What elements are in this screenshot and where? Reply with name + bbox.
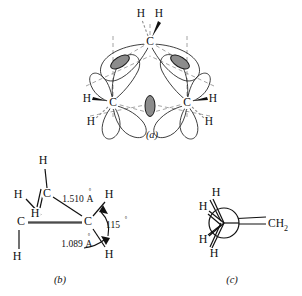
atom-label-carbon: C: [17, 214, 25, 228]
bond-length-ch: 1.089 A °: [61, 233, 92, 249]
bond-length-ch-value: 1.089: [61, 239, 83, 249]
atom-label-hydrogen: H: [39, 153, 48, 167]
methylene-label: CH: [268, 217, 284, 229]
ch-bond-wedge: [192, 97, 208, 101]
atom-label-hydrogen: H: [14, 187, 23, 201]
atom-label-hydrogen: H: [137, 7, 145, 19]
atom-label-carbon: C: [109, 96, 117, 108]
methylene-subscript: 2: [284, 224, 288, 233]
atom-label-carbon: C: [146, 35, 154, 47]
atom-label-hydrogen: H: [199, 199, 208, 213]
panel-caption-b: (b): [54, 274, 67, 286]
bond-length-cc-value: 1.510: [62, 194, 84, 204]
atom-label-hydrogen: H: [209, 92, 217, 104]
atom-label-hydrogen: H: [155, 7, 163, 19]
panel-caption-a: (a): [146, 129, 159, 141]
bent-bond-lobe: [108, 52, 131, 72]
panel-b: H H C H C H C H H 1.510 A ° 1.089 A °: [11, 153, 128, 287]
bent-bond-lobe: [168, 52, 191, 72]
atom-label-hydrogen: H: [83, 92, 91, 104]
figure-canvas: C C C H H H H H H (a): [0, 0, 302, 296]
atom-label-hydrogen: H: [105, 247, 114, 261]
panel-caption-c: (c): [226, 274, 238, 286]
atom-label-carbon: C: [84, 214, 92, 228]
ch-bond-dashed: [142, 20, 148, 36]
methylene-group-label: CH 2: [268, 217, 288, 233]
atom-label-carbon: C: [183, 96, 191, 108]
degree-icon: °: [125, 216, 128, 222]
chemistry-figure: C C C H H H H H H (a): [0, 0, 302, 296]
atom-label-hydrogen: H: [212, 185, 221, 199]
atom-label-hydrogen: H: [31, 206, 40, 220]
atom-label-hydrogen: H: [13, 249, 22, 263]
panel-a: C C C H H H H H H (a): [83, 7, 217, 142]
atom-label-hydrogen: H: [210, 246, 219, 260]
atom-label-hydrogen: H: [87, 115, 95, 127]
bond-length-cc: 1.510 A °: [62, 188, 93, 204]
bond-angle-hch: 115 °: [106, 216, 128, 230]
panel-c: H H H H CH 2 (c): [197, 185, 288, 287]
bond-angle-hch-value: 115: [106, 220, 120, 230]
atom-label-hydrogen: H: [205, 115, 213, 127]
atom-label-hydrogen: H: [105, 187, 114, 201]
atom-label-hydrogen: H: [199, 232, 208, 246]
atom-label-carbon: C: [43, 186, 51, 200]
bond-length-cc-unit: A: [87, 194, 94, 204]
ch-bond-wedge: [92, 97, 108, 101]
bond-length-ch-unit: A: [86, 239, 93, 249]
orbital-outlines: [90, 44, 211, 139]
bent-bond-lobe: [145, 96, 155, 117]
